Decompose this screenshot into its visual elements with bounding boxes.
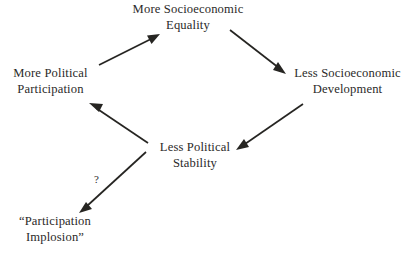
causal-loop-diagram: More Socioeconomic Equality More Politic… (0, 0, 409, 260)
node-less-political-stability: Less Political Stability (140, 140, 250, 171)
arrow-equality-to-development (230, 30, 286, 74)
node-more-political-participation: More Political Participation (0, 66, 101, 97)
node-label-line: More Political (0, 66, 101, 82)
scan-edge-artifact (0, 254, 409, 260)
arrow-stability-to-participation (89, 103, 148, 143)
node-less-socioeconomic-development: Less Socioeconomic Development (286, 66, 409, 97)
node-label-line: Stability (140, 156, 250, 172)
node-label-line: More Socioeconomic (115, 2, 261, 18)
arrow-stability-to-implosion (79, 152, 146, 213)
edge-question-mark-annotation: ? (94, 174, 99, 185)
node-label-line: “Participation (0, 214, 110, 230)
node-label-line: Less Socioeconomic (286, 66, 409, 82)
node-label-line: Less Political (140, 140, 250, 156)
node-label-line: Equality (115, 18, 261, 34)
node-participation-implosion: “Participation Implosion” (0, 214, 110, 245)
node-label-line: Development (286, 82, 409, 98)
node-label-line: Participation (0, 82, 101, 98)
node-more-socioeconomic-equality: More Socioeconomic Equality (115, 2, 261, 33)
node-label-line: Implosion” (0, 230, 110, 246)
arrow-participation-to-equality (99, 34, 160, 65)
